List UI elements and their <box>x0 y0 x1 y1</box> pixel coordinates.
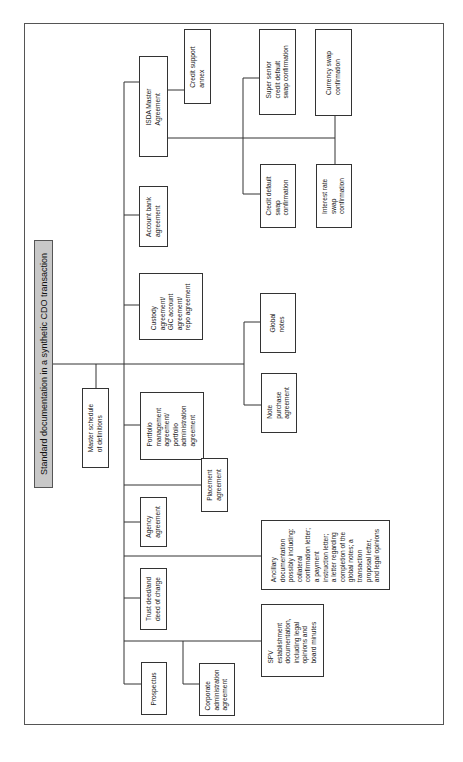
node-label: Portfoliomanagementagreement/portfolioad… <box>146 405 198 446</box>
node-label: Placementagreement <box>206 469 223 501</box>
line: transaction <box>356 528 365 582</box>
line: GIC account <box>167 283 176 330</box>
node-global-notes: Globalnotes <box>260 293 296 353</box>
line: notes <box>278 313 287 332</box>
node-label: Prospectus <box>150 672 159 705</box>
node-label: Account bankagreement <box>145 197 162 237</box>
line: agreement <box>221 669 230 710</box>
node-isda-master-agreement: ISDA MasterAgreement <box>139 56 168 157</box>
line: repo agreement <box>184 283 193 330</box>
line: establishment <box>275 618 284 663</box>
line: Global <box>269 313 278 332</box>
line: Placement <box>206 469 215 501</box>
node-label: Corporateadministrationagreement <box>204 669 230 710</box>
node-label: Interest rateswapconfirmation <box>321 178 347 214</box>
node-label: Trust deed/anddeed of charge <box>145 577 162 621</box>
line: opinions and <box>301 618 310 663</box>
node-label: Super seniorcredit defaultswap confirmat… <box>265 45 291 98</box>
node-interest-rate-swap: Interest rateswapconfirmation <box>316 164 352 228</box>
node-label: Currency swapconfirmation <box>325 51 342 95</box>
line: agreement <box>283 387 292 419</box>
node-label: Globalnotes <box>269 313 286 332</box>
node-account-bank: Account bankagreement <box>139 186 168 247</box>
line: administration <box>213 669 222 710</box>
node-label: Credit supportannex <box>189 46 206 87</box>
line: including legal <box>293 618 302 663</box>
node-trust-deed: Trust deed/anddeed of charge <box>140 568 167 630</box>
node-custody: Custodyagreement/GIC accountagreement/re… <box>139 273 203 340</box>
line: Ancillary <box>270 528 279 582</box>
line: Master schedule <box>87 404 96 452</box>
line: Interest rate <box>321 178 330 214</box>
node-prospectus: Prospectus <box>141 662 167 715</box>
line: documentation, <box>284 618 293 663</box>
line: instruction letter; <box>321 528 330 582</box>
line: Trust deed/and <box>145 577 154 621</box>
line: Agency <box>145 506 154 538</box>
node-label: SPVestablishmentdocumentation,including … <box>267 618 319 663</box>
node-credit-support-annex: Credit supportannex <box>184 29 211 104</box>
line: swap confirmation <box>282 45 291 98</box>
line: agreement/ <box>158 283 167 330</box>
line: Credit support <box>189 46 198 87</box>
title-text: Standard documentation in a synthetic CD… <box>39 253 49 475</box>
line: agreement <box>154 197 163 237</box>
line: and legal opinions <box>373 528 382 582</box>
node-label: ISDA MasterAgreement <box>145 88 162 125</box>
line: of definitions <box>96 404 105 452</box>
line: purchase <box>275 387 284 419</box>
line: Corporate <box>204 669 213 710</box>
node-label: Agencyagreement <box>145 506 162 538</box>
line: Portfolio <box>146 405 155 446</box>
line: ISDA Master <box>145 88 154 125</box>
line: confirmation <box>338 178 347 214</box>
connector-lines <box>0 0 463 762</box>
line: SPV <box>267 618 276 663</box>
node-note-purchase: Notepurchaseagreement <box>261 373 297 433</box>
line: agreement <box>189 405 198 446</box>
diagram-title: Standard documentation in a synthetic CD… <box>34 240 53 488</box>
line: possibly including: <box>287 528 296 582</box>
line: collateral <box>295 528 304 582</box>
line: documentation <box>278 528 287 582</box>
line: confirmation <box>282 176 291 215</box>
line: swap <box>274 176 283 215</box>
line: Custody <box>150 283 159 330</box>
node-label: Custodyagreement/GIC accountagreement/re… <box>150 283 193 330</box>
line: completion of the <box>338 528 347 582</box>
node-agency: Agencyagreement <box>140 497 167 547</box>
node-label: Ancillarydocumentationpossibly including… <box>270 528 382 582</box>
node-corporate-administration: Corporateadministrationagreement <box>199 663 235 716</box>
line: agreement/ <box>175 283 184 330</box>
line: Note <box>266 387 275 419</box>
line: agreement <box>215 469 224 501</box>
node-ancillary-documentation: Ancillarydocumentationpossibly including… <box>261 520 390 590</box>
line: confirmation letter; <box>304 528 313 582</box>
node-label: Master scheduleof definitions <box>87 404 104 452</box>
line: Agreement <box>154 88 163 125</box>
line: Credit default <box>265 176 274 215</box>
line: confirmation <box>334 51 343 95</box>
node-master-schedule: Master scheduleof definitions <box>82 388 109 468</box>
line: management <box>155 405 164 446</box>
line: agreement <box>154 506 163 538</box>
line: portfolio <box>172 405 181 446</box>
line: Prospectus <box>150 672 159 705</box>
node-currency-swap: Currency swapconfirmation <box>315 29 352 116</box>
node-label: Notepurchaseagreement <box>266 387 292 419</box>
line: deed of charge <box>154 577 163 621</box>
line: annex <box>198 46 207 87</box>
line: a payment <box>313 528 322 582</box>
line: Currency swap <box>325 51 334 95</box>
line: a letter regarding <box>330 528 339 582</box>
line: proposal letter, <box>364 528 373 582</box>
line: agreement/ <box>163 405 172 446</box>
line: Super senior <box>265 45 274 98</box>
node-spv-establishment: SPVestablishmentdocumentation,including … <box>261 604 324 677</box>
line: swap <box>330 178 339 214</box>
node-label: Credit defaultswapconfirmation <box>265 176 291 215</box>
line: administration <box>181 405 190 446</box>
line: board minutes <box>310 618 319 663</box>
line: global notes; a <box>347 528 356 582</box>
line: Account bank <box>145 197 154 237</box>
